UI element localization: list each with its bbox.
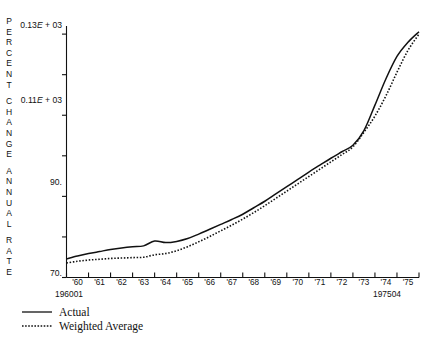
x-tick-label: '62 [111,278,133,287]
legend-label-weighted-average: Weighted Average [59,320,143,332]
range-end-label: 197504 [373,289,401,299]
x-tick-label: '74 [375,278,397,287]
y-tick-label-110: 0.11E + 03 [10,95,62,105]
x-tick-label: '69 [265,278,287,287]
y-tick-label-130: 0.13E + 03 [10,20,62,30]
series-line-weighted-average [67,34,420,263]
legend-label-actual: Actual [59,306,90,318]
x-tick-label: '61 [89,278,111,287]
data-series-group [67,32,420,263]
y-tick-label-90: 90. [10,177,62,187]
x-tick-label: '73 [353,278,375,287]
y-tick-label-70: 70. [10,268,62,278]
x-tick-label: '65 [177,278,199,287]
y-axis-ticks [62,34,67,277]
x-axis-ticks [67,273,420,278]
axis-lines [67,26,420,278]
x-tick-label: '63 [133,278,155,287]
x-tick-label: '64 [155,278,177,287]
x-tick-label: '72 [331,278,353,287]
x-tick-label: '60 [67,278,89,287]
figure: P E R C E N T C H A N G E A N N U A L R … [0,0,429,344]
x-tick-label: '70 [287,278,309,287]
legend: Actual Weighted Average [22,305,143,333]
legend-swatch-solid [22,307,52,317]
range-start-label: 196001 [55,289,83,299]
legend-item-weighted-average: Weighted Average [22,319,143,333]
x-tick-label: '71 [309,278,331,287]
x-tick-label: '75 [397,278,419,287]
x-tick-label: '67 [221,278,243,287]
x-tick-label: '66 [199,278,221,287]
legend-swatch-dotted [22,321,52,331]
x-tick-label: '68 [243,278,265,287]
legend-item-actual: Actual [22,305,143,319]
series-line-actual [67,32,420,259]
